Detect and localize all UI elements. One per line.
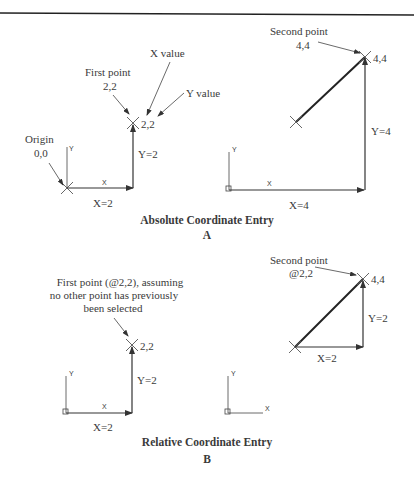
first-point-value: 2,2: [103, 80, 117, 92]
figure-a-letter: A: [203, 229, 212, 241]
figure-b-ucs-icon: Y X: [225, 370, 270, 414]
coordinate-entry-diagram: Y X X=2 Y=2 2,2 Origin 0,0 First point 2…: [0, 0, 414, 480]
x-dimension-label: X=2: [317, 352, 337, 364]
origin-leader-arrow: [49, 163, 63, 185]
x-dimension-label: X=2: [93, 421, 113, 433]
second-point-label: Second point: [270, 254, 328, 266]
second-point-leader-arrow: [318, 42, 360, 53]
axis-y-label: Y: [69, 145, 74, 152]
origin-value: 0,0: [34, 147, 48, 159]
figure-b-title: Relative Coordinate Entry: [142, 436, 273, 449]
first-point-line1: First point (@2,2), assuming: [57, 276, 184, 289]
point-coordinate: 2,2: [140, 340, 154, 352]
first-point-label: First point: [85, 66, 131, 78]
figure-a-right: Y X X=4 Y=4 4,4 Second point 4,4: [226, 25, 391, 211]
figure-b-left: First point (@2,2), assuming no other po…: [50, 276, 184, 433]
axis-x-label: X: [102, 179, 107, 186]
y-dimension-label: Y=2: [138, 148, 158, 160]
figure-b-right: Second point @2,2 4,4 X=2 Y=2: [270, 254, 388, 364]
first-point-leader-arrow: [114, 318, 128, 336]
axis-y-label: Y: [232, 146, 237, 153]
first-point-line3: been selected: [84, 302, 143, 314]
y-dimension-label: Y=2: [137, 374, 157, 386]
x-value-label: X value: [150, 47, 185, 59]
y-value-label: Y value: [186, 87, 220, 99]
origin-label: Origin: [25, 133, 54, 145]
line-segment: [296, 57, 365, 122]
x-dimension-label: X=2: [93, 197, 113, 209]
point-coordinate: 2,2: [141, 118, 155, 130]
line-segment: [295, 279, 363, 347]
axis-y-label: Y: [69, 370, 74, 377]
axis-x-label: X: [265, 405, 270, 412]
y-value-leader-arrow: [158, 93, 184, 116]
second-point-label: Second point: [270, 25, 328, 37]
first-point-leader-arrow: [113, 95, 129, 114]
first-point-line2: no other point has previously: [50, 289, 179, 301]
axis-y-label: Y: [231, 370, 236, 377]
x-dimension-label: X=4: [289, 199, 309, 211]
first-point-icon: [290, 116, 302, 128]
second-point-value: @2,2: [289, 267, 313, 279]
point-coordinate: 4,4: [373, 52, 387, 64]
axis-x-label: X: [102, 403, 107, 410]
figure-b-letter: B: [203, 453, 211, 465]
point-coordinate: 4,4: [371, 273, 385, 285]
y-dimension-label: Y=2: [368, 312, 388, 324]
top-rule: [0, 13, 414, 15]
axis-x-label: X: [267, 180, 272, 187]
figure-a-title: Absolute Coordinate Entry: [140, 214, 274, 227]
x-value-leader-arrow: [147, 62, 170, 115]
figure-a-left: Y X X=2 Y=2 2,2 Origin 0,0 First point 2…: [25, 47, 220, 209]
second-point-leader-arrow: [315, 267, 356, 275]
y-dimension-label: Y=4: [371, 125, 391, 137]
second-point-value: 4,4: [296, 39, 310, 51]
